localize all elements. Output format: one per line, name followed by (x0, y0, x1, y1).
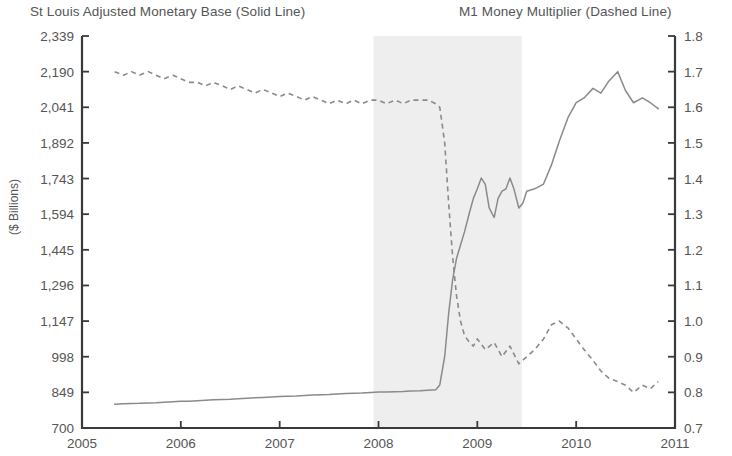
y2-tick-label: 1.5 (684, 136, 703, 151)
x-tick-label: 2011 (660, 436, 689, 451)
y-tick-label: 998 (51, 350, 74, 365)
y2-tick-label: 1.0 (684, 314, 703, 329)
y-tick-label: 2,041 (40, 100, 74, 115)
x-tick-label: 2006 (166, 436, 196, 451)
y-tick-label: 1,147 (40, 314, 74, 329)
y2-tick-label: 1.2 (684, 243, 703, 258)
recession-shading (374, 36, 522, 428)
y-tick-label: 849 (51, 385, 74, 400)
y2-tick-label: 1.6 (684, 100, 703, 115)
x-tick-label: 2009 (462, 436, 492, 451)
y2-tick-label: 1.1 (684, 278, 703, 293)
y2-axis-labels: 0.70.80.91.01.11.21.31.41.51.61.71.8 (684, 29, 703, 436)
y-tick-label: 1,445 (40, 243, 74, 258)
y-tick-label: 1,743 (40, 172, 74, 187)
y-tick-label: 1,296 (40, 278, 74, 293)
x-tick-label: 2007 (265, 436, 295, 451)
chart-container: St Louis Adjusted Monetary Base (Solid L… (0, 0, 732, 456)
y2-tick-label: 1.7 (684, 65, 703, 80)
recession-band-group (374, 36, 522, 428)
y-axis-labels: 7008499981,1471,2961,4451,5941,7431,8922… (40, 29, 74, 436)
y2-tick-label: 0.7 (684, 421, 703, 436)
y-tick-label: 2,190 (40, 65, 74, 80)
x-tick-label: 2010 (561, 436, 591, 451)
x-tick-label: 2005 (67, 436, 97, 451)
y2-tick-label: 1.8 (684, 29, 703, 44)
y2-tick-label: 1.4 (684, 172, 703, 187)
y2-tick-label: 0.8 (684, 385, 703, 400)
y-tick-label: 1,892 (40, 136, 74, 151)
x-axis-labels: 2005200620072008200920102011 (67, 436, 690, 451)
x-tick-label: 2008 (363, 436, 393, 451)
y-tick-label: 1,594 (40, 207, 74, 222)
y2-tick-label: 0.9 (684, 350, 703, 365)
plot-area: 7008499981,1471,2961,4451,5941,7431,8922… (0, 0, 732, 456)
y2-tick-label: 1.3 (684, 207, 703, 222)
y-tick-label: 700 (51, 421, 74, 436)
y-tick-label: 2,339 (40, 29, 74, 44)
